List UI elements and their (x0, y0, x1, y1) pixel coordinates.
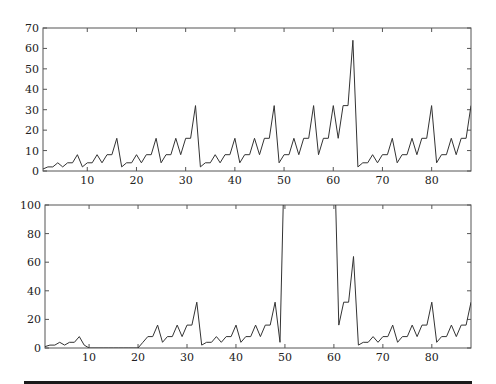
x-tick-label: 80 (425, 351, 439, 364)
x-tick-label: 50 (277, 174, 291, 187)
y-tick-label: 40 (27, 285, 41, 298)
y-tick-label: 70 (25, 22, 39, 35)
x-tick-label: 70 (376, 351, 390, 364)
x-tick-label: 60 (326, 174, 340, 187)
x-tick-label: 40 (229, 351, 243, 364)
x-tick-label: 30 (180, 351, 194, 364)
plot-frame (43, 28, 471, 171)
y-tick-label: 20 (27, 313, 41, 326)
x-tick-label: 70 (375, 174, 389, 187)
x-tick-label: 20 (131, 351, 145, 364)
y-tick-label: 0 (34, 342, 41, 355)
y-tick-label: 100 (20, 199, 41, 212)
y-tick-label: 40 (25, 83, 39, 96)
y-tick-label: 80 (27, 228, 41, 241)
data-series-line (45, 134, 471, 349)
y-tick-label: 60 (27, 256, 41, 269)
x-tick-label: 10 (80, 174, 94, 187)
plot-frame (45, 205, 471, 348)
x-tick-label: 80 (425, 174, 439, 187)
chart-canvas: 1020304050607080010203040506070 10203040… (0, 0, 496, 384)
x-tick-label: 10 (82, 351, 96, 364)
y-tick-label: 30 (25, 104, 39, 117)
y-tick-label: 10 (25, 145, 39, 158)
x-tick-label: 30 (179, 174, 193, 187)
x-tick-label: 50 (278, 351, 292, 364)
y-tick-label: 60 (25, 42, 39, 55)
x-tick-label: 40 (228, 174, 242, 187)
y-tick-label: 0 (32, 165, 39, 178)
data-series-line (43, 40, 471, 169)
x-tick-label: 20 (129, 174, 143, 187)
top-line-chart: 1020304050607080010203040506070 (25, 22, 471, 187)
x-tick-label: 60 (327, 351, 341, 364)
y-tick-label: 50 (25, 63, 39, 76)
y-tick-label: 20 (25, 124, 39, 137)
